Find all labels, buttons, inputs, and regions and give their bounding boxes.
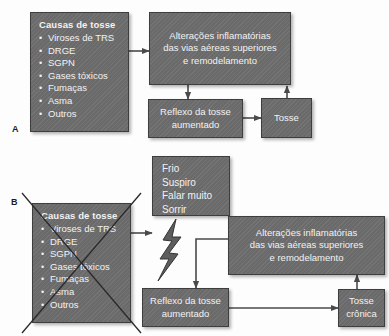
figure-container: A Causas de tosse •Viroses de TRS •DRGE … bbox=[0, 0, 389, 336]
panel-b-causes-crossout bbox=[0, 0, 389, 336]
